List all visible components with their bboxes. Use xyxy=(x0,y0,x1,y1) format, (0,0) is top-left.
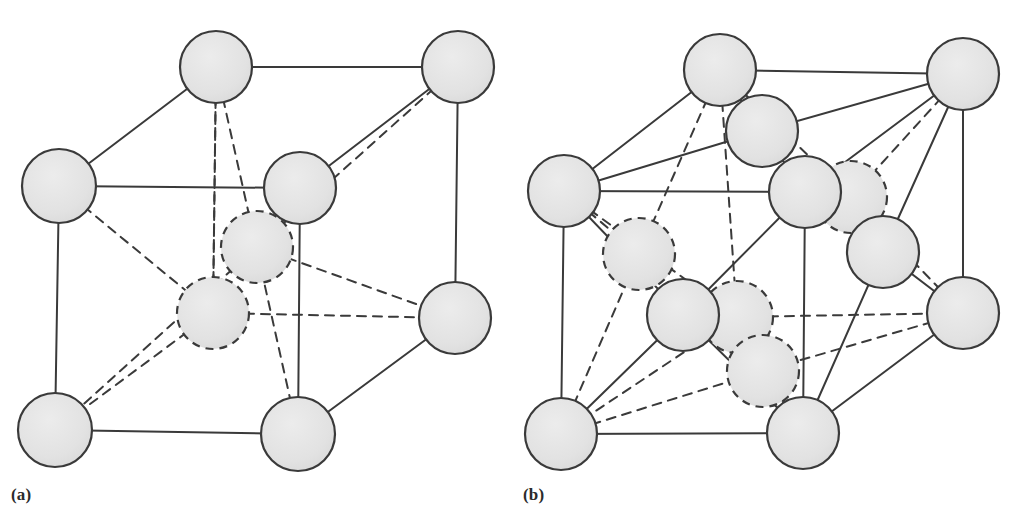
atom-center-lower xyxy=(177,277,249,349)
atom-corner-bottom-front-left xyxy=(525,398,597,470)
atom-face-center-bottom xyxy=(727,335,799,407)
figure-canvas: (a) (b) xyxy=(0,0,1025,529)
atom-corner-bottom-back-right xyxy=(927,277,999,349)
atom-corner-top-front-right xyxy=(264,152,336,224)
panel-label-b: (b) xyxy=(523,485,544,505)
panel-label-a: (a) xyxy=(11,485,31,505)
atom-corner-top-front-left xyxy=(22,149,96,223)
atom-corner-bottom-front-right xyxy=(767,397,839,469)
atom-face-center-top xyxy=(726,95,798,167)
atom-face-center-right xyxy=(847,216,919,288)
atom-corner-top-front-right xyxy=(769,156,841,228)
atom-face-center-left xyxy=(603,218,675,290)
atom-face-center-front xyxy=(647,279,719,351)
atom-corner-bottom-front-left xyxy=(18,393,92,467)
crystal-structure-figure xyxy=(0,0,1025,529)
atom-corner-top-back-right xyxy=(927,38,999,110)
atom-center-upper xyxy=(221,211,293,283)
atom-corner-top-back-left xyxy=(180,31,252,103)
atom-corner-bottom-back-right xyxy=(419,282,491,354)
atom-corner-bottom-front-right xyxy=(261,397,335,471)
atom-corner-top-back-right xyxy=(422,31,494,103)
atom-corner-top-front-left xyxy=(528,155,600,227)
atom-corner-top-back-left xyxy=(684,34,756,106)
